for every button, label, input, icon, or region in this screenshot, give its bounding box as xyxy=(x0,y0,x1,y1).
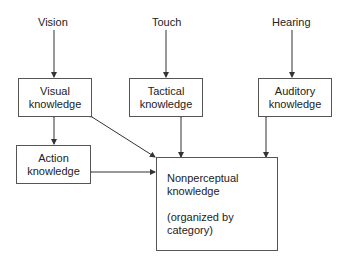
tactical-knowledge-box: Tactical knowledge xyxy=(129,78,203,117)
box-label-line2: knowledge xyxy=(259,98,331,111)
box-label-line4: category) xyxy=(167,224,277,237)
auditory-knowledge-box: Auditory knowledge xyxy=(258,78,332,117)
box-label-line2: knowledge xyxy=(19,98,91,111)
visual-knowledge-box: Visual knowledge xyxy=(18,78,92,117)
box-label-line1: Nonperceptual xyxy=(167,172,277,185)
box-label-line2: knowledge xyxy=(130,98,202,111)
box-label-line1: Auditory xyxy=(259,85,331,98)
input-hearing-label: Hearing xyxy=(272,16,311,28)
input-touch-label: Touch xyxy=(152,16,181,28)
box-label-line1: Action xyxy=(17,152,90,165)
input-vision-label: Vision xyxy=(38,16,68,28)
box-label-line2: knowledge xyxy=(17,165,90,178)
nonperceptual-knowledge-box: Nonperceptual knowledge (organized by ca… xyxy=(156,157,278,251)
action-knowledge-box: Action knowledge xyxy=(16,145,91,184)
box-label-line1: Tactical xyxy=(130,85,202,98)
box-label-line3: (organized by xyxy=(167,211,277,224)
box-label-line1: Visual xyxy=(19,85,91,98)
box-label-line2: knowledge xyxy=(167,185,277,198)
